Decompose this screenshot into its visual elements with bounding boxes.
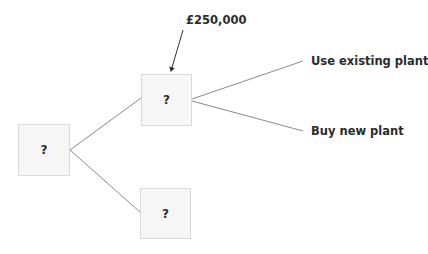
root-node-label: ? xyxy=(41,143,48,157)
upper-decision-node: ? xyxy=(141,74,192,126)
option-use-existing-plant: Use existing plant xyxy=(311,56,428,68)
branch-buy-new-plant xyxy=(192,101,303,131)
lower-node-label: ? xyxy=(162,207,169,221)
option-buy-new-plant: Buy new plant xyxy=(311,126,404,138)
upper-node-label: ? xyxy=(163,93,170,107)
branch-use-existing-plant xyxy=(192,61,303,99)
branch-root-to-lower xyxy=(70,150,140,212)
annotation-arrow xyxy=(171,30,183,71)
root-decision-node: ? xyxy=(18,124,70,176)
branch-root-to-upper xyxy=(70,98,141,150)
cost-annotation: £250,000 xyxy=(186,15,246,27)
lower-decision-node: ? xyxy=(140,188,191,239)
